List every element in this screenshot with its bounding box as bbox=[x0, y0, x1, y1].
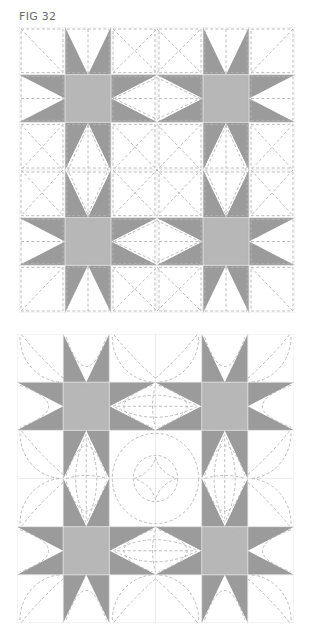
quilt-diagram-straight-quilting bbox=[19, 27, 295, 313]
quilt-diagram-curved-quilting bbox=[17, 334, 294, 623]
star-center-square bbox=[202, 527, 248, 575]
star-center-square bbox=[65, 75, 111, 123]
star-center-square bbox=[203, 218, 249, 266]
star-center-square bbox=[202, 382, 248, 430]
quilt-layout bbox=[17, 334, 294, 623]
figure-label: FIG 32 bbox=[19, 10, 56, 23]
star-center-square bbox=[63, 382, 109, 430]
quilt-layout bbox=[19, 27, 295, 313]
star-center-square bbox=[63, 527, 109, 575]
star-center-square bbox=[203, 75, 249, 123]
star-center-square bbox=[65, 218, 111, 266]
